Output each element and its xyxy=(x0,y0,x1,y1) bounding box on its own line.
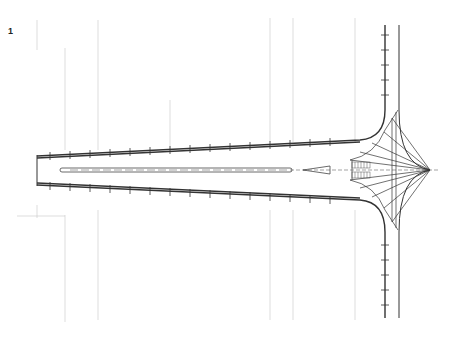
central-median xyxy=(60,166,440,174)
stairs xyxy=(352,162,370,178)
road-edges xyxy=(37,25,430,318)
plan-drawing xyxy=(0,0,454,340)
